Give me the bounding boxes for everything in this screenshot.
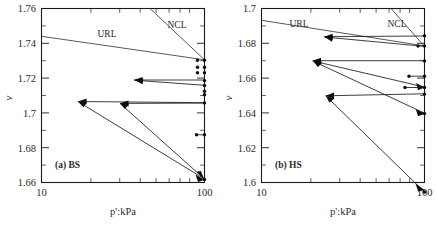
y-axis-minor-ticks <box>42 26 46 165</box>
swelling-path-arrows <box>313 34 425 192</box>
chart-svg-b: 1.7 1.68 1.66 1.64 1.62 1.6 v <box>219 0 438 232</box>
url-line <box>42 36 205 60</box>
figure-root: 1.76 1.74 1.72 1.7 1.68 1.66 v <box>0 0 438 232</box>
y-tick-label: 1.76 <box>18 3 36 14</box>
ncl-line <box>150 9 205 60</box>
x-tick-label: 100 <box>197 187 213 198</box>
x-axis-title: p':kPa <box>330 206 356 217</box>
swelling-path-arrows <box>78 77 205 182</box>
y-tick-label: 1.7 <box>23 108 36 119</box>
x-axis-title: p':kPa <box>110 206 136 217</box>
x-axis-ticks <box>42 9 205 183</box>
plot-frame <box>42 9 205 183</box>
url-label: URL <box>98 29 117 39</box>
chart-svg-a: 1.76 1.74 1.72 1.7 1.68 1.66 v <box>0 0 219 232</box>
x-tick-label: 10 <box>36 187 47 198</box>
y-axis-title: v <box>2 95 14 100</box>
y-tick-label: 1.66 <box>238 73 256 84</box>
chart-panel-b: 1.7 1.68 1.66 1.64 1.62 1.6 v <box>219 0 438 232</box>
panel-caption-b: (b) HS <box>275 160 302 171</box>
chart-panel-a: 1.76 1.74 1.72 1.7 1.68 1.66 v <box>0 0 219 232</box>
y-tick-label: 1.74 <box>18 38 37 49</box>
y-tick-label: 1.66 <box>18 177 36 188</box>
y-axis-minor-ticks <box>262 26 266 165</box>
url-label: URL <box>290 19 309 29</box>
y-tick-label: 1.68 <box>238 38 256 49</box>
y-tick-label: 1.7 <box>243 3 256 14</box>
ncl-label: NCL <box>388 19 407 29</box>
y-tick-label: 1.68 <box>18 143 36 154</box>
ncl-label: NCL <box>168 20 187 30</box>
y-tick-label: 1.64 <box>238 108 257 119</box>
y-tick-label: 1.62 <box>238 143 256 154</box>
y-tick-label: 1.6 <box>243 177 256 188</box>
x-tick-label: 10 <box>256 187 267 198</box>
y-tick-label: 1.72 <box>18 73 36 84</box>
y-axis-title: v <box>222 95 234 100</box>
panel-caption-a: (a) BS <box>55 160 80 171</box>
